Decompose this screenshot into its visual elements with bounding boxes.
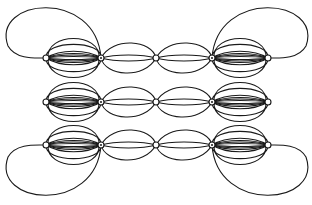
- sparse-edge: [101, 142, 156, 145]
- sparse-edge: [156, 142, 212, 145]
- sparse-edge: [101, 102, 156, 105]
- sparse-edge: [101, 58, 156, 61]
- graph-node: [265, 142, 271, 148]
- node-center-dot: [100, 57, 102, 59]
- sparse-edge: [156, 55, 212, 58]
- graph-diagram: [0, 0, 312, 205]
- sparse-edge: [156, 102, 212, 105]
- sparse-edge: [101, 99, 156, 102]
- node-center-dot: [100, 101, 102, 103]
- node-center-dot: [211, 101, 213, 103]
- diagram-svg: [0, 0, 312, 205]
- graph-node: [43, 55, 49, 61]
- outer-loop-edge: [212, 8, 308, 58]
- graph-node: [265, 99, 271, 105]
- sparse-edge: [101, 145, 156, 148]
- graph-node: [265, 55, 271, 61]
- graph-node: [43, 142, 49, 148]
- sparse-edge: [101, 55, 156, 58]
- outer-loop-edge: [6, 145, 101, 195]
- graph-node: [43, 99, 49, 105]
- graph-node: [153, 55, 159, 61]
- graph-node: [153, 99, 159, 105]
- node-center-dot: [211, 57, 213, 59]
- graph-node: [153, 142, 159, 148]
- node-center-dot: [211, 144, 213, 146]
- sparse-edge: [156, 58, 212, 61]
- sparse-edge: [156, 99, 212, 102]
- outer-loop-edge: [212, 145, 308, 195]
- outer-loop-edge: [6, 8, 101, 58]
- node-center-dot: [100, 144, 102, 146]
- sparse-edge: [156, 145, 212, 148]
